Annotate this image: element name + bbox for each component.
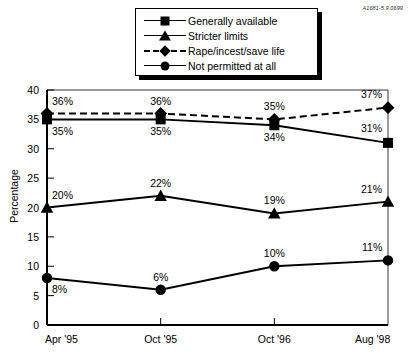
chart-root: A1681-5.9.0699 Generally availableStrict… <box>0 0 409 355</box>
marker-circle-3-1 <box>155 285 165 295</box>
marker-circle-3-0 <box>42 273 52 283</box>
marker-square-0-3 <box>383 138 393 148</box>
plot-canvas <box>0 0 409 355</box>
series-line-2 <box>47 108 388 120</box>
marker-diamond-2-3 <box>382 101 395 114</box>
marker-circle-3-3 <box>383 255 393 265</box>
series-line-3 <box>47 260 388 289</box>
series-line-1 <box>47 196 388 214</box>
marker-circle-3-2 <box>269 261 279 271</box>
series-line-0 <box>47 119 388 143</box>
